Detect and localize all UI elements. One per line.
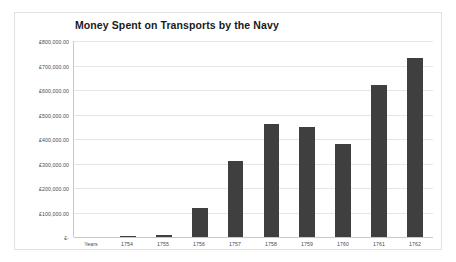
x-axis-tick-label: 1756 bbox=[181, 239, 217, 253]
y-axis-tick-label: £200,000.00 bbox=[39, 186, 69, 192]
y-axis-tick-label: £300,000.00 bbox=[39, 162, 69, 168]
bar-slot bbox=[110, 41, 146, 237]
chart-title: Money Spent on Transports by the Navy bbox=[75, 19, 415, 31]
y-axis-tick-label: £800,000.00 bbox=[39, 39, 69, 45]
bar[interactable] bbox=[156, 235, 172, 237]
x-axis-tick-label: 1758 bbox=[253, 239, 289, 253]
y-axis-tick-label: £600,000.00 bbox=[39, 88, 69, 94]
x-axis-tick-label: 1757 bbox=[217, 239, 253, 253]
bar[interactable] bbox=[371, 85, 387, 237]
y-axis-tick-label: £100,000.00 bbox=[39, 211, 69, 217]
chart-container: Money Spent on Transports by the Navy £-… bbox=[14, 12, 442, 250]
bar[interactable] bbox=[120, 236, 136, 237]
bar[interactable] bbox=[264, 124, 280, 237]
plot-area: £-£100,000.00£200,000.00£300,000.00£400,… bbox=[73, 41, 433, 237]
bar-slot bbox=[182, 41, 218, 237]
bar[interactable] bbox=[192, 208, 208, 237]
bars-layer bbox=[74, 41, 433, 237]
x-axis-tick-label: 1760 bbox=[325, 239, 361, 253]
y-axis-tick-label: £- bbox=[64, 235, 69, 241]
bar-slot bbox=[361, 41, 397, 237]
x-axis-tick-label: 1762 bbox=[397, 239, 433, 253]
y-axis-tick-label: £400,000.00 bbox=[39, 137, 69, 143]
bar[interactable] bbox=[228, 161, 244, 237]
bar[interactable] bbox=[335, 144, 351, 237]
bar-slot bbox=[397, 41, 433, 237]
category-axis: Years17541755175617571758175917601761176… bbox=[73, 239, 433, 253]
bar-slot bbox=[74, 41, 110, 237]
y-axis-tick-label: £500,000.00 bbox=[39, 113, 69, 119]
bar-slot bbox=[146, 41, 182, 237]
x-axis-tick-label: 1755 bbox=[145, 239, 181, 253]
bar-slot bbox=[289, 41, 325, 237]
x-axis-tick-label: 1754 bbox=[109, 239, 145, 253]
x-axis-tick-label: 1761 bbox=[361, 239, 397, 253]
bar-slot bbox=[218, 41, 254, 237]
bar-slot bbox=[254, 41, 290, 237]
plot-inner: £-£100,000.00£200,000.00£300,000.00£400,… bbox=[73, 41, 433, 237]
bar-slot bbox=[325, 41, 361, 237]
bar[interactable] bbox=[407, 58, 423, 237]
x-axis-tick-label: Years bbox=[73, 239, 109, 253]
bar[interactable] bbox=[299, 127, 315, 237]
y-axis-tick-label: £700,000.00 bbox=[39, 64, 69, 70]
x-axis-tick-label: 1759 bbox=[289, 239, 325, 253]
gridline: £- bbox=[74, 237, 433, 238]
